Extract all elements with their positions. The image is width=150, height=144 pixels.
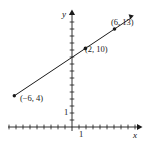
x-axis-unit-label: 1 — [79, 129, 83, 139]
coordinate-plane-figure: (−6, 4) (2, 10) (6, 13) x y 1 1 — [0, 0, 150, 144]
y-axis-unit-label: 1 — [64, 107, 68, 117]
data-point-label-2: (2, 10) — [85, 44, 108, 54]
axes-group — [8, 10, 143, 132]
data-point-label-3: (6, 13) — [111, 17, 134, 27]
y-axis-label: y — [62, 9, 66, 19]
data-point-marker-1 — [13, 94, 16, 97]
data-point-label-1: (−6, 4) — [20, 93, 43, 103]
y-axis-arrowhead — [69, 10, 75, 16]
x-axis-arrowhead — [137, 124, 143, 130]
data-point-marker-3 — [113, 27, 117, 31]
x-axis-label: x — [133, 130, 137, 140]
